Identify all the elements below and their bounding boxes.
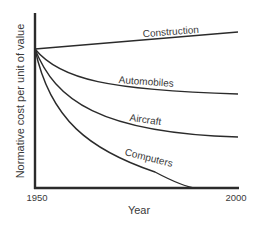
automobiles-curve bbox=[35, 49, 238, 94]
x-axis-title: Year bbox=[128, 204, 151, 216]
construction-curve bbox=[35, 32, 238, 49]
y-axis-title: Normative cost per unit of value bbox=[14, 24, 26, 179]
x-tick-1950: 1950 bbox=[26, 192, 47, 203]
computers-label: Computers bbox=[124, 146, 174, 169]
cost-trend-chart: Construction Automobiles Aircraft Comput… bbox=[0, 0, 258, 235]
computers-curve bbox=[35, 49, 196, 188]
construction-label: Construction bbox=[142, 24, 199, 39]
x-tick-2000: 2000 bbox=[225, 192, 246, 203]
